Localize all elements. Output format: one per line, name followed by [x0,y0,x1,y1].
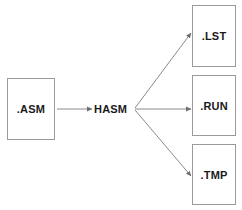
diagram-canvas: .ASM HASM .LST .RUN .TMP [0,0,242,210]
node-label-asm: .ASM [17,103,45,115]
node-label-hasm: HASM [94,103,127,115]
node-run-executable-file: .RUN [192,75,236,136]
node-label-run: .RUN [200,100,228,112]
edge-hasm-to-tmp [135,110,191,176]
node-hasm-assembler: HASM [94,103,127,115]
node-label-lst: .LST [202,30,227,42]
node-label-tmp: .TMP [200,169,227,181]
edge-hasm-to-lst [135,33,191,108]
node-lst-listing-file: .LST [192,5,236,67]
node-asm-source-file: .ASM [7,78,55,140]
node-tmp-temporary-file: .TMP [192,144,236,205]
